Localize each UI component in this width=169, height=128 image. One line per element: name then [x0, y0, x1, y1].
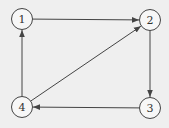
- edge-4-to-2: [31, 26, 141, 101]
- node-label: 4: [19, 101, 26, 114]
- graph-diagram: 1234: [0, 0, 169, 128]
- node-3: 3: [140, 98, 161, 119]
- node-label: 1: [19, 13, 26, 26]
- node-1: 1: [12, 9, 33, 30]
- node-4: 4: [12, 97, 33, 118]
- node-label: 2: [147, 14, 154, 27]
- edge-3-to-4: [33, 107, 140, 108]
- node-2: 2: [140, 10, 161, 31]
- node-label: 3: [147, 102, 154, 115]
- edge-1-to-2: [32, 19, 139, 20]
- edges: [22, 19, 150, 108]
- graph-canvas: 1234: [0, 0, 169, 128]
